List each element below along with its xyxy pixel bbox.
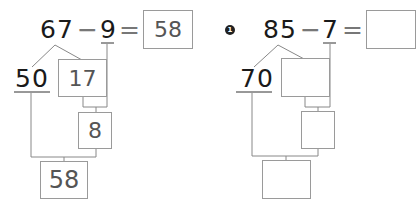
equals-sign: = [119, 17, 141, 42]
step-result-box: 8 [78, 112, 112, 149]
subtrahend: 7 [322, 17, 339, 42]
step-result-box[interactable] [301, 111, 335, 149]
minuend: 67 [40, 17, 74, 42]
final-result-box[interactable] [262, 160, 311, 199]
subtrahend: 9 [100, 17, 117, 42]
answer-box: 58 [143, 10, 193, 49]
minus-sign: − [77, 17, 99, 42]
final-result-box: 58 [40, 161, 88, 199]
minus-sign: − [300, 17, 322, 42]
decomposed-tens: 50 [15, 66, 49, 91]
problem-number-badge: 1 [225, 25, 235, 35]
minuend: 85 [263, 17, 297, 42]
equals-sign: = [342, 17, 364, 42]
decomposed-rest-box[interactable] [281, 58, 330, 97]
decomposed-tens: 70 [240, 66, 274, 91]
answer-box[interactable] [366, 10, 416, 49]
decomposed-rest-box: 17 [58, 59, 107, 97]
